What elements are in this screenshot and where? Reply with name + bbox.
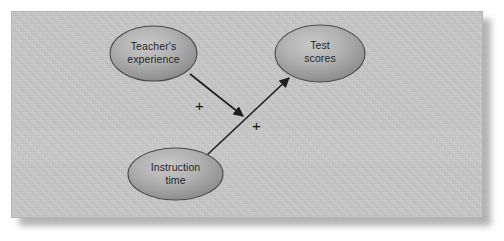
node-teachers-experience bbox=[110, 26, 197, 81]
node-test-scores bbox=[275, 25, 365, 82]
diagram-canvas bbox=[0, 0, 504, 241]
node-instruction-time bbox=[128, 148, 223, 200]
edge-experience-moderates-path bbox=[190, 74, 243, 116]
diagram-screenshot: Teacher's experience Test scores Instruc… bbox=[0, 0, 504, 241]
edge-instruction-to-test bbox=[206, 78, 289, 156]
